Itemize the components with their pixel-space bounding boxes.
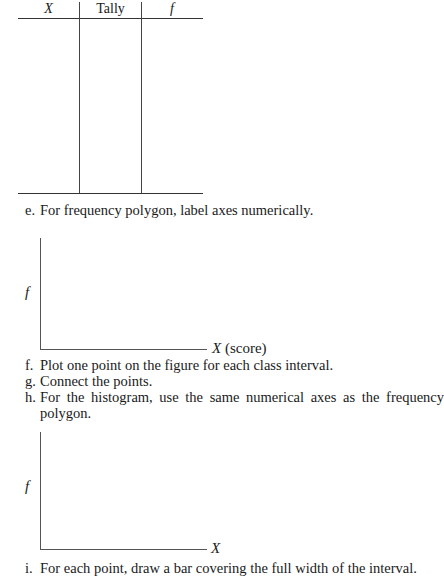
histogram-x-axis: [40, 549, 207, 550]
polygon-x-label: X (score): [212, 340, 267, 357]
polygon-x-axis: [40, 349, 207, 350]
table-top-rule: [18, 18, 203, 19]
table-column-divider-2: [141, 2, 142, 194]
polygon-y-label: f: [25, 284, 29, 301]
step-h: h.For the histogram, use the same numeri…: [25, 389, 444, 405]
step-i: i.For each point, draw a bar covering th…: [25, 560, 417, 576]
table-column-divider-1: [79, 2, 80, 194]
column-header-tally: Tally: [80, 1, 141, 17]
histogram-x-label: X: [211, 540, 220, 557]
step-text: For frequency polygon, label axes numeri…: [40, 202, 313, 218]
step-g: g.Connect the points.: [25, 373, 152, 389]
step-letter: e.: [25, 202, 40, 218]
histogram-y-label: f: [25, 478, 29, 495]
step-e: e.For frequency polygon, label axes nume…: [25, 202, 313, 218]
step-f: f.Plot one point on the figure for each …: [25, 357, 333, 373]
polygon-y-axis: [40, 238, 41, 350]
column-header-x: X: [18, 1, 79, 17]
column-header-f: f: [142, 1, 202, 17]
table-bottom-rule: [18, 193, 203, 194]
histogram-y-axis: [40, 432, 41, 550]
step-h-continued: polygon.: [25, 405, 91, 421]
